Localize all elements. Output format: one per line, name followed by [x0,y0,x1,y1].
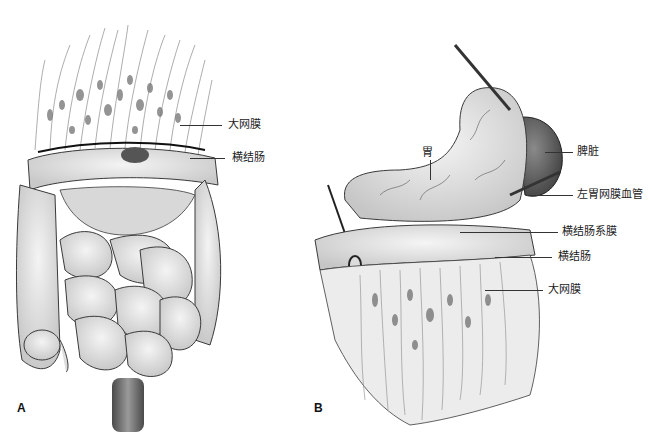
small-intestine-loops [60,232,201,377]
stomach-omentum-drawing [300,0,653,432]
panel-letter-b: B [314,401,323,415]
label-transverse-mesocolon: 横结肠系膜 [562,226,617,238]
intestines-omentum-drawing [0,0,300,432]
label-left-gastroepiploic-vessels: 左胃网膜血管 [577,189,643,201]
label-stomach: 胃 [422,147,433,159]
fat-deposits [47,75,181,134]
panel-letter-a: A [17,401,26,415]
label-greater-omentum-b: 大网膜 [548,284,581,296]
panel-b-illustration: 胃 脾脏 左胃网膜血管 横结肠系膜 横结肠 大网膜 B [300,0,653,432]
label-spleen: 脾脏 [577,146,599,158]
rectum [112,378,144,432]
leader-line-transverse-mesocolon [460,232,558,233]
leader-line-omentum-a [180,125,222,126]
stomach-shape [344,88,526,222]
leader-line-transverse-colon-b [495,257,552,258]
leader-line-greater-omentum-b [485,290,543,291]
leader-line-transverse-colon-a [190,158,225,159]
panel-a-illustration: 大网膜 横结肠 A [0,0,300,432]
label-greater-omentum-a: 大网膜 [228,119,261,131]
leader-line-left-gastroepiploic-vessels [530,195,573,196]
leader-line-stomach [430,160,431,180]
leader-line-spleen [545,152,573,153]
omentum-strands [35,25,212,155]
label-transverse-colon-b: 横结肠 [558,251,591,263]
label-transverse-colon-a: 横结肠 [232,152,265,164]
